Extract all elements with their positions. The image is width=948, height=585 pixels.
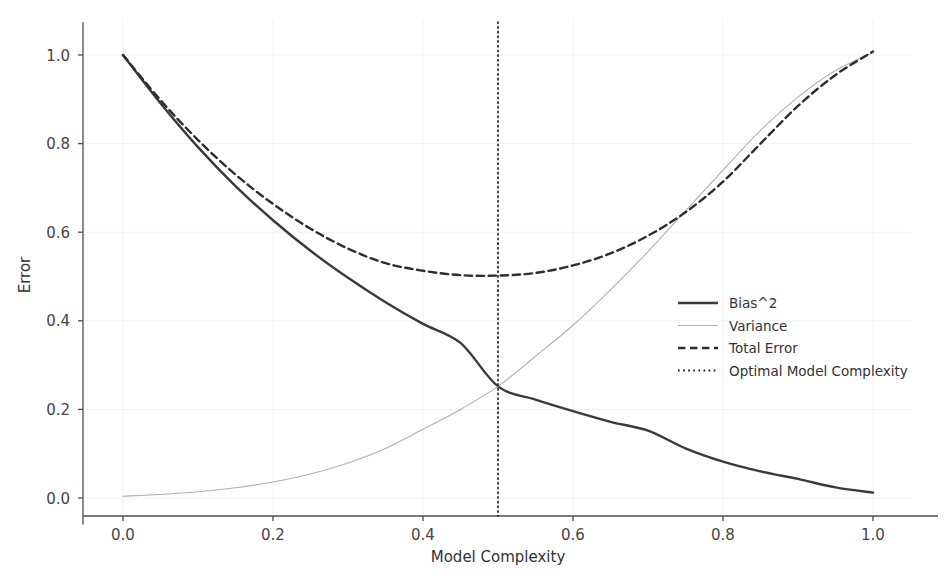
x-tick-label: 0.8 [711,526,735,544]
y-tick-label: 0.6 [46,224,70,242]
y-tick-label: 1.0 [46,47,70,65]
x-tick-label: 0.4 [411,526,435,544]
x-tick-label: 0.2 [261,526,285,544]
chart-figure: 0.00.20.40.60.81.00.00.20.40.60.81.0 Bia… [0,0,948,585]
legend-label-variance: Variance [729,318,787,334]
y-axis-title: Error [16,256,34,293]
y-tick-label: 0.0 [46,490,70,508]
y-tick-label: 0.2 [46,401,70,419]
x-tick-label: 0.0 [111,526,135,544]
legend-label-total-error: Total Error [728,340,798,356]
y-tick-label: 0.8 [46,135,70,153]
legend-label-optimal-model-complexity: Optimal Model Complexity [729,363,908,379]
x-axis-title: Model Complexity [431,548,566,566]
legend-label-bias-2: Bias^2 [729,295,777,311]
y-tick-label: 0.4 [46,312,70,330]
chart-canvas: 0.00.20.40.60.81.00.00.20.40.60.81.0 Bia… [0,0,948,585]
x-tick-label: 1.0 [861,526,885,544]
x-tick-label: 0.6 [561,526,585,544]
figure-background [0,0,948,585]
